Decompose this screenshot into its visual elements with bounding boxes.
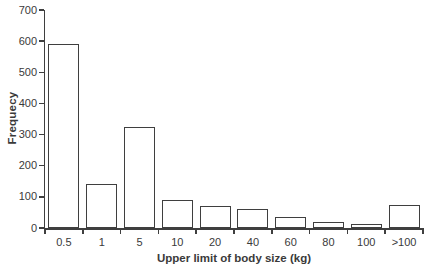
x-tick-label: 20 (196, 237, 234, 248)
y-tick-label: 500 (7, 67, 37, 78)
bar (351, 224, 382, 228)
x-tick-label: 10 (158, 237, 196, 248)
x-axis-tick (158, 230, 160, 234)
y-axis-label: Frequecy (6, 63, 18, 173)
bar (237, 209, 268, 228)
x-axis-tick (195, 230, 197, 234)
y-axis-tick (39, 9, 44, 11)
y-tick-label: 700 (7, 5, 37, 16)
x-tick-label: 60 (272, 237, 310, 248)
x-axis-tick (271, 230, 273, 234)
x-tick-label: 0.5 (45, 237, 83, 248)
x-tick-label: 40 (234, 237, 272, 248)
y-tick-label: 0 (7, 223, 37, 234)
bar (48, 44, 79, 228)
y-axis-tick (39, 227, 44, 229)
y-axis-tick (39, 72, 44, 74)
x-tick-label: 100 (347, 237, 385, 248)
y-tick-label: 100 (7, 191, 37, 202)
x-axis-label: Upper limit of body size (kg) (45, 252, 423, 264)
bar (389, 205, 420, 228)
y-axis-tick (39, 196, 44, 198)
x-axis-tick (309, 230, 311, 234)
y-tick-label: 400 (7, 98, 37, 109)
y-tick-label: 300 (7, 129, 37, 140)
y-tick-label: 200 (7, 160, 37, 171)
x-tick-label: 5 (121, 237, 159, 248)
bar (86, 184, 117, 228)
bar (200, 206, 231, 228)
bar-chart-figure: Frequecy 01002003004005006007000.5151020… (0, 0, 427, 273)
x-axis-tick (44, 230, 46, 234)
x-axis-tick (120, 230, 122, 234)
x-tick-label: 1 (83, 237, 121, 248)
bar (124, 127, 155, 228)
x-axis-tick (422, 230, 424, 234)
x-axis-tick (82, 230, 84, 234)
bar (162, 200, 193, 228)
x-tick-label: >100 (385, 237, 423, 248)
x-axis-tick (384, 230, 386, 234)
bar (313, 222, 344, 228)
y-axis-tick (39, 40, 44, 42)
x-axis-tick (347, 230, 349, 234)
x-axis-tick (233, 230, 235, 234)
x-tick-label: 80 (310, 237, 348, 248)
y-axis-tick (39, 134, 44, 136)
y-axis-line (44, 10, 46, 230)
y-axis-tick (39, 165, 44, 167)
y-tick-label: 600 (7, 36, 37, 47)
y-axis-tick (39, 103, 44, 105)
bar (275, 217, 306, 228)
